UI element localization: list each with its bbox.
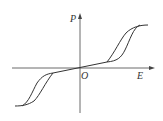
p-axis-arrow-icon (78, 13, 82, 19)
e-axis-label: E (136, 70, 143, 81)
upper-loop-falling-branch (107, 25, 140, 62)
lower-loop-falling-branch (22, 73, 53, 106)
p-axis-label: P (69, 13, 76, 24)
e-axis-arrow-icon (149, 66, 155, 70)
hysteresis-diagram: P O E (0, 0, 163, 121)
origin-label: O (81, 70, 88, 81)
